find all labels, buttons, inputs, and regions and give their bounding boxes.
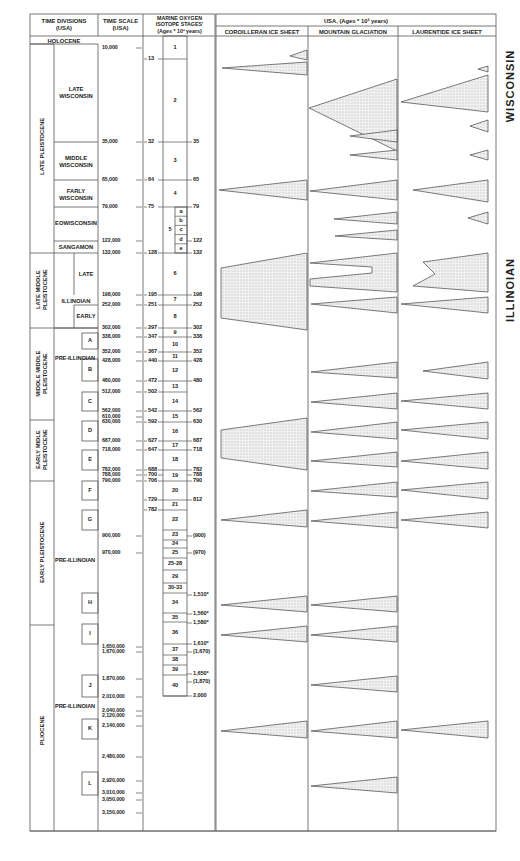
- time-scale-value: 79,000: [102, 204, 118, 209]
- time-scale-value: 2,480,000: [102, 754, 125, 759]
- isotope-stage: 36: [166, 630, 184, 636]
- isotope-stage: 35: [166, 615, 184, 621]
- time-scale-value: 1,670,000: [102, 649, 125, 654]
- division-sangamon: SANGAMON: [54, 244, 98, 251]
- division-box-a: A: [82, 338, 98, 344]
- isotope-right-age: (970): [193, 550, 206, 556]
- division-illinoian-early: EARLY: [74, 313, 98, 320]
- isotope-stage: 30-33: [166, 585, 184, 591]
- isotope-right-age: 2,000: [193, 693, 207, 699]
- isotope-right-age: 1,610*: [193, 641, 209, 647]
- division-pre-illinoian-3: PRE-ILLINOIAN: [55, 704, 95, 710]
- time-scale-value: 2,120,000: [102, 713, 125, 718]
- time-scale-value: 687,000: [102, 438, 120, 443]
- isotope-right-age: (1,670): [193, 649, 210, 655]
- cordilleran-glaciations: [219, 50, 307, 738]
- isotope-stage: 38: [166, 657, 184, 663]
- isotope-left-age: 195: [148, 292, 157, 298]
- isotope-stage: 15: [166, 414, 184, 420]
- isotope-right-age: 132: [193, 250, 202, 256]
- laurentide-glaciations: [401, 66, 488, 738]
- mountain-glaciations: [309, 79, 397, 793]
- time-scale-value: 122,000: [102, 238, 120, 243]
- division-early-wisconsin: FARLY WISCONSIN: [54, 188, 98, 202]
- isotope-stage: 23: [166, 532, 184, 538]
- isotope-stage: 37: [166, 647, 184, 653]
- isotope-right-age: (900): [193, 533, 206, 539]
- time-scale-value: 790,000: [102, 478, 120, 483]
- division-box-b: B: [82, 367, 98, 373]
- time-scale-value: 132,000: [102, 250, 120, 255]
- isotope-stage: 29: [166, 574, 184, 580]
- isotope-substage: c: [175, 227, 187, 233]
- isotope-right-age: (1,870): [193, 679, 210, 685]
- isotope-left-age: 13: [148, 56, 154, 62]
- time-scale-value: 900,000: [102, 533, 120, 538]
- isotope-right-age: 630: [193, 419, 202, 425]
- header-laurentide: LAURENTIDE ICE SHEET: [398, 29, 496, 36]
- time-scale-value: 10,000: [102, 45, 118, 50]
- diagram-lines: [0, 0, 520, 861]
- isotope-left-age: 627: [148, 438, 157, 444]
- time-scale-value: 352,000: [102, 349, 120, 354]
- epoch-late-middle-pleistocene: LATE MIDDLE PLEISTOCENE: [35, 260, 48, 320]
- isotope-right-age: 812: [193, 497, 202, 503]
- isotope-substage: b: [175, 218, 187, 224]
- division-pre-illinoian-1: PRE-ILLINOIAN: [55, 356, 95, 362]
- isotope-left-age: 251: [148, 302, 157, 308]
- isotope-left-age: 367: [148, 349, 157, 355]
- division-box-l: L: [82, 781, 98, 787]
- isotope-stage: 22: [166, 517, 184, 523]
- isotope-left-age: 729: [148, 497, 157, 503]
- header-isotope-stages: MARINE OXYGEN ISOTOPE STAGES' (Ages * 10…: [143, 15, 216, 34]
- division-late-wisconsin: LATE WISCONSIN: [54, 86, 98, 100]
- time-scale-value: 512,000: [102, 389, 120, 394]
- isotope-stage: 7: [166, 297, 184, 303]
- isotope-stage: 8: [166, 314, 184, 320]
- isotope-stage: 21: [166, 502, 184, 508]
- isotope-right-age: 790: [193, 478, 202, 484]
- isotope-right-age: 718: [193, 447, 202, 453]
- isotope-stage: 10: [166, 342, 184, 348]
- isotope-left-age: 472: [148, 378, 157, 384]
- isotope-left-age: 347: [148, 334, 157, 340]
- header-usa: USA, (Ages * 10³ years): [216, 18, 496, 25]
- isotope-left-age: 297: [148, 325, 157, 331]
- isotope-left-age: 542: [148, 408, 157, 414]
- isotope-left-age: 32: [148, 139, 154, 145]
- time-scale-value: 2,920,000: [102, 778, 125, 783]
- isotope-right-age: 198: [193, 292, 202, 298]
- isotope-right-age: 79: [193, 204, 199, 210]
- time-scale-value: 970,000: [102, 550, 120, 555]
- time-scale-value: 338,000: [102, 334, 120, 339]
- epoch-pliocene: PLIOCENE: [39, 700, 46, 760]
- isotope-stage: 17: [166, 443, 184, 449]
- isotope-stage: 3: [166, 158, 184, 164]
- isotope-right-age: 1,650*: [193, 671, 209, 677]
- time-scale-value: 718,000: [102, 447, 120, 452]
- isotope-left-age: 75: [148, 204, 154, 210]
- header-cordilleran: COROILLERAN ICE SHEET: [216, 29, 308, 36]
- division-box-h: H: [82, 600, 98, 606]
- division-box-g: G: [82, 517, 98, 523]
- header-time-scale: TIME SCALE (USA): [98, 18, 143, 32]
- division-box-j: J: [82, 683, 98, 689]
- isotope-right-age: 352: [193, 349, 202, 355]
- isotope-right-age: 35: [193, 139, 199, 145]
- isotope-stage: 34: [166, 600, 184, 606]
- time-scale-value: 1,870,000: [102, 676, 125, 681]
- isotope-right-age: 65: [193, 177, 199, 183]
- isotope-stage: 1: [166, 45, 184, 51]
- division-middle-wisconsin: MIDDLE WISCONSIN: [54, 155, 98, 169]
- side-label-illinoian: ILLINOIAN: [504, 250, 516, 330]
- division-box-d: D: [82, 428, 98, 434]
- isotope-left-age: 647: [148, 447, 157, 453]
- isotope-stage: 25: [166, 550, 184, 556]
- isotope-right-age: 338: [193, 334, 202, 340]
- isotope-right-age: 480: [193, 378, 202, 384]
- time-scale-value: 198,000: [102, 292, 120, 297]
- isotope-stage: 39: [166, 667, 184, 673]
- division-pre-illinoian-2: PRE-ILLINOIAN: [55, 558, 95, 564]
- isotope-stage: 11: [166, 354, 184, 360]
- isotope-right-age: 687: [193, 438, 202, 444]
